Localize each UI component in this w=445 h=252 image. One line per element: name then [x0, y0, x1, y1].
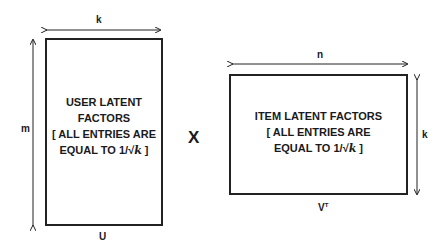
text-line: EQUAL TO 1/√k ] [231, 140, 406, 157]
n-width-label: n [317, 49, 323, 60]
matrix-u-label: U [99, 231, 106, 242]
variable-k: k [134, 144, 142, 157]
matrix-name: V [318, 202, 325, 213]
text-fragment: ] [356, 142, 363, 154]
text-line: FACTORS [47, 110, 161, 126]
text-line: ITEM LATENT FACTORS [231, 108, 406, 124]
text-line: USER LATENT [47, 94, 161, 110]
transpose-superscript: T [325, 202, 329, 208]
user-matrix-text: USER LATENT FACTORS [ ALL ENTRIES ARE EQ… [47, 94, 161, 159]
m-height-label: m [21, 123, 30, 134]
text-line: [ ALL ENTRIES ARE [47, 126, 161, 142]
matrix-vt-label: VT [318, 202, 328, 213]
item-matrix-text: ITEM LATENT FACTORS [ ALL ENTRIES ARE EQ… [231, 108, 406, 157]
k-width-label: k [96, 14, 102, 25]
text-fragment: EQUAL TO 1/√ [59, 144, 134, 156]
multiply-operator: X [188, 128, 199, 148]
text-line: [ ALL ENTRIES ARE [231, 124, 406, 140]
user-latent-factors-matrix: USER LATENT FACTORS [ ALL ENTRIES ARE EQ… [45, 38, 163, 226]
text-fragment: ] [142, 144, 149, 156]
text-line: EQUAL TO 1/√k ] [47, 142, 161, 159]
item-latent-factors-matrix: ITEM LATENT FACTORS [ ALL ENTRIES ARE EQ… [229, 74, 408, 195]
k-height-label: k [422, 129, 428, 140]
text-fragment: EQUAL TO 1/√ [274, 142, 349, 154]
